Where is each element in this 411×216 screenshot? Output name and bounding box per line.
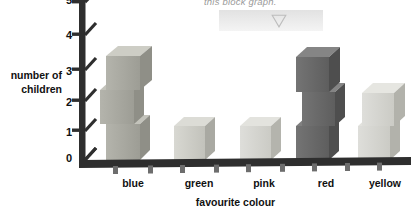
bar-blue bbox=[100, 46, 152, 160]
graph-drawing bbox=[0, 0, 411, 216]
block-yellow-2 bbox=[362, 83, 405, 126]
y-axis bbox=[72, 0, 96, 162]
block-pink-1 bbox=[240, 117, 281, 160]
block-red-3 bbox=[296, 47, 340, 92]
block-graph-figure: this block graph. number of children 0 1… bbox=[0, 0, 411, 216]
bar-pink bbox=[240, 117, 281, 160]
bar-yellow bbox=[358, 83, 405, 160]
bar-green bbox=[174, 117, 215, 160]
bar-red bbox=[296, 47, 345, 160]
block-green-1 bbox=[174, 117, 215, 160]
block-blue-3 bbox=[106, 46, 152, 90]
